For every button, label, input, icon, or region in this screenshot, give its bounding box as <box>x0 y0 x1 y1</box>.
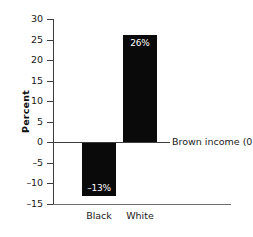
y-tick-mark <box>47 40 53 41</box>
y-tick-mark <box>47 81 53 82</box>
y-tick-label-minus5: –5 <box>10 157 43 168</box>
y-tick-label-5: 5 <box>10 116 43 127</box>
zero-reference-line <box>53 142 170 143</box>
y-tick-label-20: 20 <box>10 54 43 65</box>
y-axis-line <box>53 19 54 205</box>
bar-white <box>123 35 157 142</box>
x-axis-baseline <box>53 204 231 205</box>
y-tick-label-minus15: –15 <box>10 198 43 209</box>
y-tick-label-15: 15 <box>10 75 43 86</box>
y-tick-mark <box>47 183 53 184</box>
y-tick-label-0: 0 <box>10 136 43 147</box>
y-tick-label-25: 25 <box>10 34 43 45</box>
y-tick-mark <box>47 19 53 20</box>
x-category-label-black: Black <box>77 210 121 221</box>
y-tick-mark <box>47 163 53 164</box>
bar-chart: Percent 30 25 20 15 10 5 0 –5 –10 –15 –1… <box>0 0 253 237</box>
y-tick-label-minus10: –10 <box>10 177 43 188</box>
y-tick-mark <box>47 60 53 61</box>
bar-value-label-black: –13% <box>82 183 116 193</box>
bar-value-label-white: 26% <box>123 38 157 48</box>
x-category-label-white: White <box>118 210 162 221</box>
y-tick-label-30: 30 <box>10 13 43 24</box>
y-tick-mark <box>47 101 53 102</box>
y-tick-mark <box>47 204 53 205</box>
y-tick-label-10: 10 <box>10 95 43 106</box>
brown-income-annotation: Brown income (0) <box>172 136 253 147</box>
y-tick-mark <box>47 122 53 123</box>
